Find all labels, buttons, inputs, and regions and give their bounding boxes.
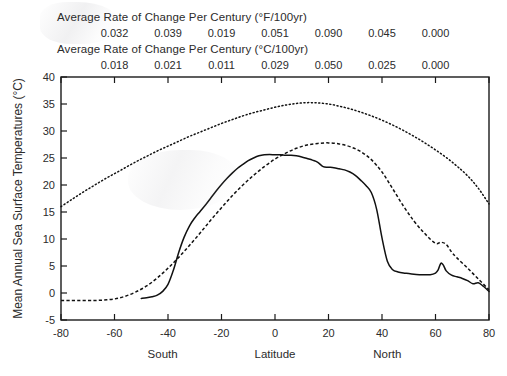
sst-latitude-chart: Average Rate of Change Per Century (°F/1… <box>0 0 507 376</box>
y-tick-label: 40 <box>43 71 55 83</box>
y-tick-label: 10 <box>43 233 55 245</box>
plot-frame <box>61 77 489 320</box>
axis-ticks <box>61 77 489 320</box>
x-tick-label: 40 <box>376 327 388 339</box>
y-tick-label: 5 <box>49 260 55 272</box>
y-tick-label: 0 <box>49 287 55 299</box>
x-tick-label: 60 <box>429 327 441 339</box>
x-tick-label: -80 <box>53 327 69 339</box>
x-tick-label: 80 <box>483 327 495 339</box>
y-tick-label: 25 <box>43 152 55 164</box>
data-series-group <box>61 103 489 301</box>
series-lower-solid <box>141 154 489 298</box>
y-tick-label: -5 <box>45 314 55 326</box>
x-axis-label-south: South <box>148 348 178 360</box>
y-tick-label: 20 <box>43 179 55 191</box>
y-axis-label: Mean Annual Sea Surface Temperatures (°C… <box>11 78 25 319</box>
plot-canvas: -80-60-40-20020406080-50510152025303540L… <box>0 0 507 376</box>
x-tick-label: -60 <box>107 327 123 339</box>
axis-labels: -80-60-40-20020406080-50510152025303540L… <box>11 71 495 360</box>
y-tick-label: 30 <box>43 125 55 137</box>
x-tick-label: -20 <box>214 327 230 339</box>
x-axis-label: Latitude <box>255 348 296 360</box>
y-tick-label: 15 <box>43 206 55 218</box>
x-tick-label: 0 <box>272 327 278 339</box>
x-axis-label-north: North <box>373 348 401 360</box>
x-tick-label: -40 <box>160 327 176 339</box>
x-tick-label: 20 <box>322 327 334 339</box>
y-tick-label: 35 <box>43 98 55 110</box>
series-middle-dashed <box>61 143 489 301</box>
